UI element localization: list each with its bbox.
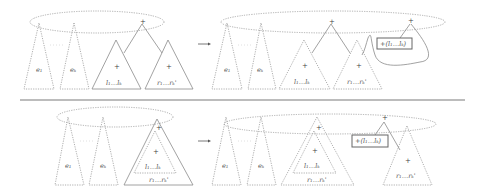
label-r: r₁…rₖ' xyxy=(347,78,367,86)
bottom-before: e₁ eₖ + r₁…rₖ' + l₁…lₖ xyxy=(55,107,193,185)
plus-outer: + xyxy=(316,124,322,132)
label-l: l₁…lₖ xyxy=(106,79,122,87)
label-r: r₁…rₖ' xyxy=(307,176,327,184)
plus-new: + xyxy=(382,114,388,122)
subtree-ek xyxy=(247,117,276,185)
label-ek: eₖ xyxy=(100,162,107,170)
plus-r: + xyxy=(405,157,411,165)
label-r: r₁…rₖ' xyxy=(157,79,177,87)
plus-l: + xyxy=(114,63,120,71)
subtree-ek xyxy=(89,117,118,185)
label-l: l₁…lₖ xyxy=(304,162,320,170)
plus-inner: + xyxy=(153,148,159,156)
label-ek: eₖ xyxy=(257,66,264,74)
top-after: e₁ eₖ + l₁…lₖ + r₁…rₖ' + + +(l₁…lₖ) xyxy=(212,11,445,89)
subtree-e1 xyxy=(212,117,241,185)
plus-r: + xyxy=(166,63,172,71)
label-l: l₁…lₖ xyxy=(145,163,161,171)
arrow-bottom xyxy=(198,140,211,143)
plus-inner: + xyxy=(312,147,318,155)
root-ellipse xyxy=(224,114,436,134)
plus-new: + xyxy=(408,17,414,25)
plus-r: + xyxy=(356,62,362,70)
label-r: r₁…rₖ' xyxy=(149,176,169,184)
label-e1: e₁ xyxy=(224,66,230,74)
bottom-after: e₁ eₖ + r₁…rₖ' + l₁…lₖ + +(l₁…lₖ) + r₁…r… xyxy=(212,114,436,185)
subtree-ek xyxy=(248,23,276,89)
boxed-label: +(l₁…lₖ) xyxy=(380,40,407,48)
label-l: l₁…lₖ xyxy=(294,78,310,86)
subtree-e1 xyxy=(55,117,84,185)
label-ek: eₖ xyxy=(258,162,265,170)
boxed-label: +(l₁…lₖ) xyxy=(355,137,382,145)
top-before: e₁ eₖ + l₁…lₖ + r₁…rₖ' + xyxy=(24,11,193,89)
label-r-new: r₁…rₖ' xyxy=(396,172,416,180)
plus-outer: + xyxy=(156,124,162,132)
label-e1: e₁ xyxy=(222,162,228,170)
plus-l: + xyxy=(302,62,308,70)
label-e1: e₁ xyxy=(65,162,71,170)
subtree-e1 xyxy=(24,23,54,89)
tree-transformation-diagram: e₁ eₖ + l₁…lₖ + r₁…rₖ' + e₁ eₖ + l₁…lₖ xyxy=(0,0,486,193)
label-ek: eₖ xyxy=(70,66,77,74)
arrow-top xyxy=(198,43,211,46)
label-e1: e₁ xyxy=(36,66,42,74)
subtree-e1 xyxy=(212,23,242,89)
